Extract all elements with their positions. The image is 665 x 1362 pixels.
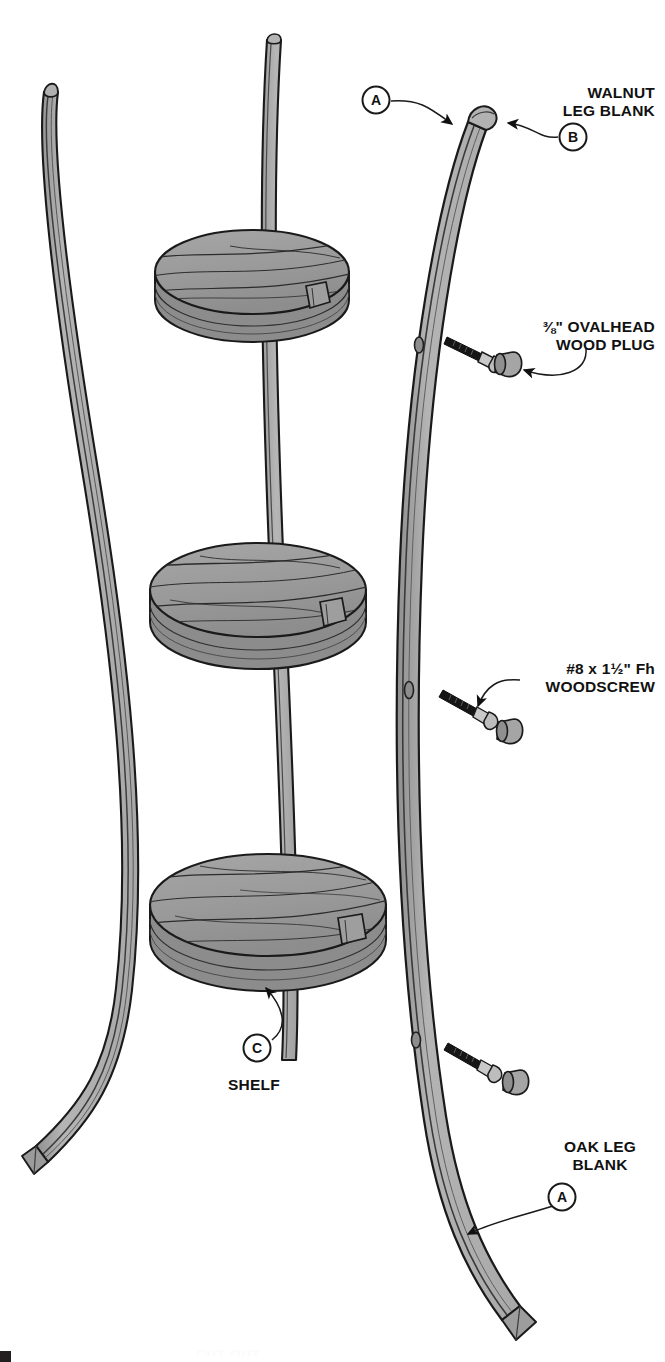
leg-rear-left — [22, 84, 138, 1174]
hardware-set-bottom — [444, 1043, 529, 1095]
leader-oak-leg-bottom — [468, 1205, 556, 1234]
hardware-set-top — [444, 337, 522, 377]
balloon-a-bottom[interactable]: A — [549, 1184, 576, 1211]
balloon-c-label: C — [252, 1040, 262, 1056]
woodscrew-middle — [439, 690, 498, 729]
balloon-c[interactable]: C — [244, 1035, 271, 1062]
woodscrew-bottom — [444, 1043, 502, 1082]
leader-oak-leg-top — [391, 101, 452, 124]
wood-plug-middle — [497, 719, 523, 744]
label-oak-leg-blank-line2: BLANK — [572, 1156, 628, 1173]
hardware-set-middle — [439, 690, 523, 744]
assembled-stand-group — [22, 34, 400, 1174]
screw-hole-top — [415, 337, 424, 353]
balloon-a-top[interactable]: A — [363, 87, 390, 114]
label-shelf: SHELF — [228, 1076, 280, 1093]
balloon-a-top-label: A — [371, 92, 381, 108]
page-cropped-text: CUT OUT — [196, 1347, 261, 1356]
label-woodscrew-line1: #8 x 1½" Fh — [566, 660, 655, 677]
screw-hole-bottom — [412, 1032, 421, 1048]
shelf-bottom — [144, 854, 400, 991]
label-woodscrew-line2: WOODSCREW — [546, 678, 656, 695]
label-oak-leg-blank-line1: OAK LEG — [564, 1138, 636, 1155]
leader-woodscrew — [478, 680, 520, 706]
balloon-b-label: B — [568, 129, 578, 145]
label-wood-plug-line2: WOOD PLUG — [556, 336, 655, 353]
label-walnut-leg-blank-line1: WALNUT — [588, 84, 656, 101]
wood-plug-bottom — [503, 1070, 529, 1095]
leader-shelf — [266, 988, 282, 1040]
leader-walnut-leg — [508, 123, 558, 137]
shelf-middle — [140, 543, 382, 669]
label-wood-plug-line1: ⅜" OVALHEAD — [542, 318, 655, 335]
shelf-top — [148, 230, 362, 342]
balloon-a-bottom-label: A — [557, 1189, 567, 1205]
screw-hole-middle — [405, 682, 414, 699]
wood-plug-top — [495, 352, 522, 377]
label-walnut-leg-blank-line2: LEG BLANK — [563, 102, 656, 119]
diagram-canvas: A B C A WALNUT LEG BLANK ⅜" OVALHEAD WOO… — [0, 0, 665, 1362]
page-corner-mark — [0, 1351, 11, 1362]
balloon-b[interactable]: B — [560, 124, 587, 151]
